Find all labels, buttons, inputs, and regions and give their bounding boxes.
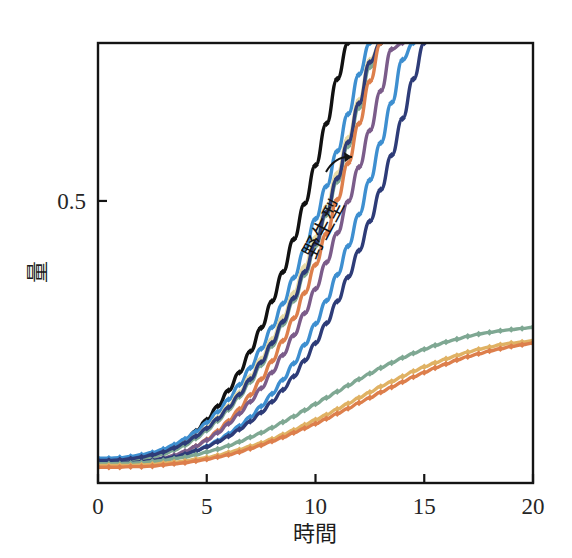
x-axis-title: 時間: [293, 521, 337, 546]
y-axis-tick-labels: 0.5: [57, 189, 86, 214]
x-tick-label: 0: [92, 494, 104, 519]
growth-curve-figure: 05101520 0.5 時間 量 野生型: [0, 0, 572, 558]
y-axis-title: 量: [25, 261, 50, 283]
x-tick-label: 5: [201, 494, 213, 519]
figure-background: [0, 0, 572, 558]
chart-canvas: 05101520 0.5 時間 量 野生型: [0, 0, 572, 558]
x-tick-label: 10: [304, 494, 327, 519]
x-tick-label: 15: [413, 494, 436, 519]
x-tick-label: 20: [522, 494, 545, 519]
y-tick-label: 0.5: [57, 189, 86, 214]
